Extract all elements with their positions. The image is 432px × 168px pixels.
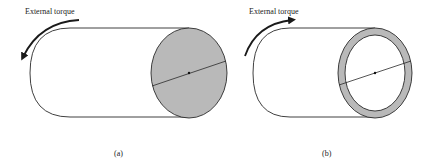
caption-a: (a) [114,149,123,158]
external-torque-label-a: External torque [25,7,75,16]
figure-b-hollow-shaft: External torque (b) [245,7,412,158]
external-torque-label-b: External torque [249,7,299,16]
torque-arrow-b-icon [245,20,292,56]
center-point-b [374,72,376,74]
torque-arrow-a-icon [23,20,79,57]
center-point-a [188,72,190,74]
caption-b: (b) [322,149,332,158]
torsion-diagram: External torque (a) External torque (b) [0,0,432,168]
figure-a-solid-shaft: External torque (a) [23,7,227,158]
